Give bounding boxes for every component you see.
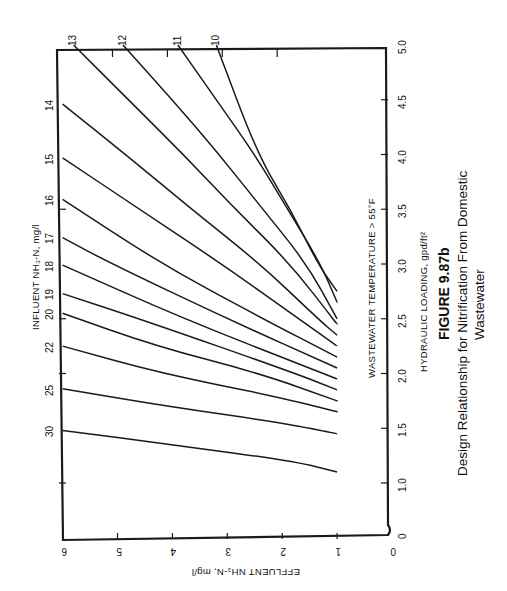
axis-ticks (59, 49, 388, 539)
influent-label-17: 17 (44, 233, 55, 244)
hydraulic-tick-1.5: 1.5 (397, 423, 408, 437)
hydraulic-tick-2.0: 2.0 (397, 369, 408, 383)
influent-label-10: 10 (210, 35, 221, 46)
influent-label-13: 13 (67, 35, 78, 46)
influent-label-11: 11 (172, 36, 183, 46)
frame-outline (57, 48, 390, 540)
influent-label-12: 12 (117, 35, 128, 46)
influent-curve-19 (63, 294, 338, 390)
hydraulic-tick-1.0: 1.0 (397, 478, 408, 492)
effluent-axis-title: EFFLUENT NH₃-N, mg/l (192, 567, 300, 578)
effluent-tick-1: 1 (336, 546, 342, 557)
influent-curve-30 (63, 430, 338, 472)
effluent-tick-0: 0 (390, 546, 396, 557)
figure-caption-line1: Design Relationship for Nitrification Fr… (455, 171, 470, 476)
hydraulic-axis-title: HYDRAULIC LOADING, gpd/ft² (418, 232, 429, 372)
effluent-tick-5: 5 (116, 546, 122, 557)
influent-curve-18 (63, 265, 338, 379)
effluent-tick-4: 4 (171, 546, 177, 557)
influent-label-14: 14 (44, 100, 55, 111)
hydraulic-tick-4.0: 4.0 (397, 150, 408, 164)
hydraulic-tick-5.0: 5.0 (397, 40, 408, 54)
hydraulic-tick-2.5: 2.5 (397, 314, 408, 328)
influent-curve-17 (63, 238, 338, 368)
influent-curve-12 (123, 45, 337, 319)
influent-label-16: 16 (44, 195, 55, 206)
influent-label-22: 22 (44, 342, 55, 353)
influent-curves (63, 45, 338, 472)
hydraulic-tick-3.5: 3.5 (397, 204, 408, 218)
hydraulic-tick-0: 0 (397, 533, 408, 539)
effluent-tick-3: 3 (226, 546, 232, 557)
influent-curve-22 (63, 346, 338, 412)
hydraulic-tick-4.5: 4.5 (397, 95, 408, 109)
influent-curve-25 (63, 389, 338, 434)
temperature-annotation: WASTEWATER TEMPERATURE > 55°F (366, 198, 377, 378)
influent-label-15: 15 (44, 154, 55, 165)
plot-frame (57, 48, 390, 540)
effluent-tick-6: 6 (61, 546, 67, 557)
influent-label-20: 20 (44, 309, 55, 320)
influent-label-19: 19 (44, 289, 55, 300)
influent-curve-10 (216, 45, 337, 291)
influent-curve-13 (74, 45, 338, 324)
effluent-tick-2: 2 (281, 546, 287, 557)
nitrification-chart (0, 0, 507, 591)
figure-caption-line2: Wastewater (472, 269, 487, 340)
influent-axis-title: INFLUENT NH₃-N, mg/l (30, 224, 41, 330)
influent-label-18: 18 (44, 261, 55, 272)
influent-label-25: 25 (44, 385, 55, 396)
hydraulic-tick-3.0: 3.0 (397, 259, 408, 273)
influent-label-30: 30 (44, 426, 55, 437)
figure-number: FIGURE 9.87b (436, 247, 452, 340)
